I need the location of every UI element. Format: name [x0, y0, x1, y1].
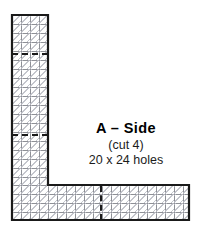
- piece-label-block: A – Side (cut 4) 20 x 24 holes: [52, 121, 200, 167]
- piece-cut-count: (cut 4): [52, 139, 200, 152]
- fold-line-foot: [100, 186, 102, 220]
- fold-line-upper: [12, 53, 48, 55]
- piece-title: A – Side: [52, 121, 200, 136]
- piece-hole-dimensions: 20 x 24 holes: [52, 154, 200, 167]
- fold-line-lower: [12, 134, 48, 136]
- diagram-canvas: A – Side (cut 4) 20 x 24 holes: [0, 0, 204, 232]
